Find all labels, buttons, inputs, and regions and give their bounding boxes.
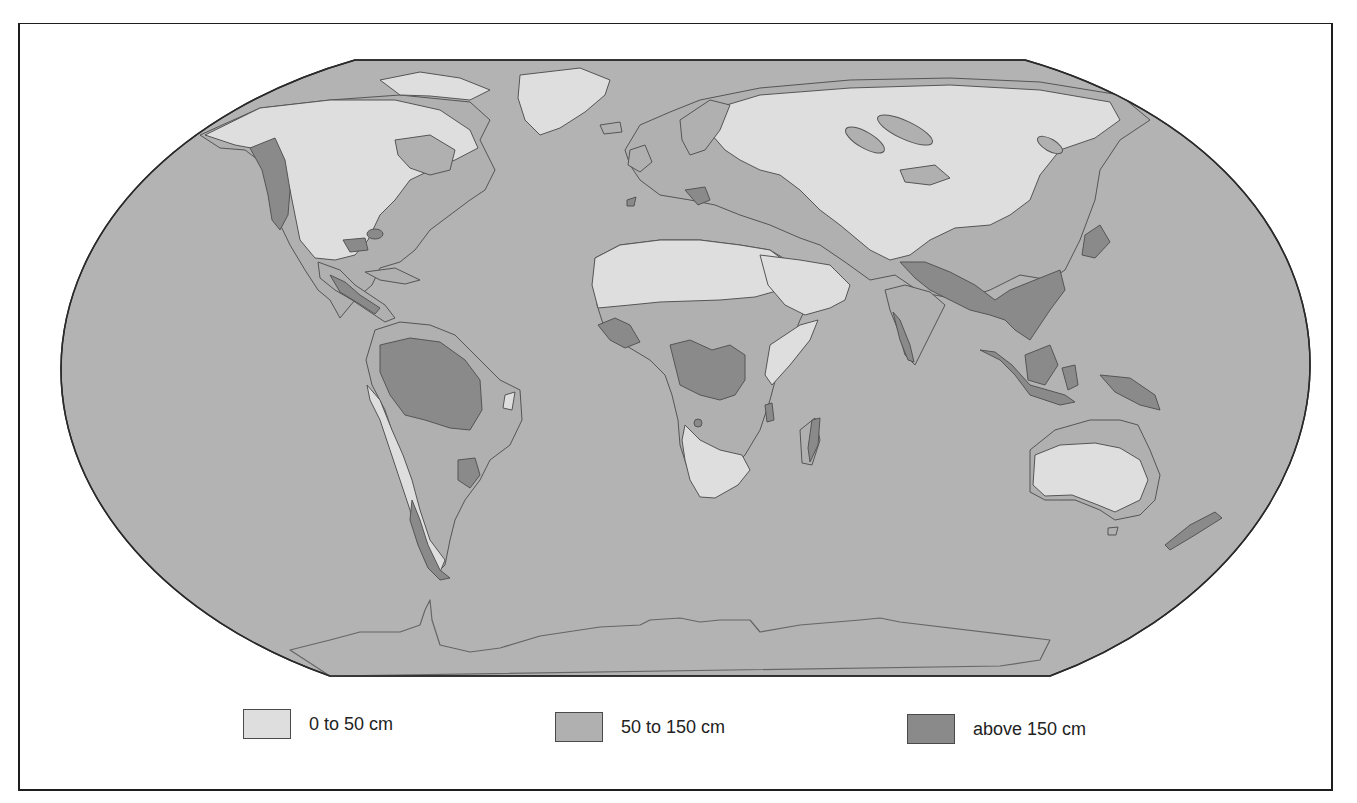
world-precipitation-map (0, 0, 1357, 803)
legend-label-low: 0 to 50 cm (309, 714, 393, 735)
legend-swatch-low (243, 709, 291, 739)
legend-item-medium: 50 to 150 cm (555, 712, 725, 742)
legend-label-medium: 50 to 150 cm (621, 717, 725, 738)
legend-swatch-medium (555, 712, 603, 742)
legend-item-high: above 150 cm (907, 714, 1086, 744)
legend-swatch-high (907, 714, 955, 744)
legend-label-high: above 150 cm (973, 719, 1086, 740)
legend-item-low: 0 to 50 cm (243, 709, 393, 739)
